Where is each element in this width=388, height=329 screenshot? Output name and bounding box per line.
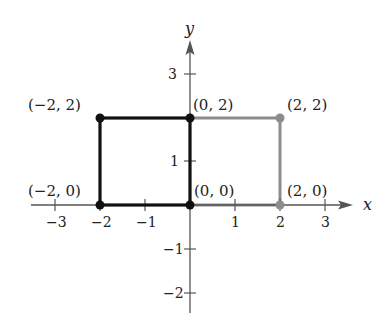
point-2-0 <box>276 201 285 210</box>
x-tick-label: −1 <box>136 214 157 230</box>
x-tick-label: 3 <box>321 214 330 230</box>
point-neg2-2 <box>96 114 105 123</box>
point-label: (−2, 0) <box>28 182 81 200</box>
x-tick-label: 2 <box>276 214 285 230</box>
coordinate-plane: x y −3 −2 −1 1 2 3 3 1 −1 −2 (−2, 2) (0,… <box>0 0 388 329</box>
y-tick-label: 3 <box>168 66 177 82</box>
x-axis-label: x <box>363 195 372 214</box>
y-axis-label: y <box>184 19 195 38</box>
point-label: (2, 2) <box>287 96 327 114</box>
x-tick-label: 1 <box>231 214 240 230</box>
point-neg2-0 <box>96 201 105 210</box>
point-0-0 <box>186 201 195 210</box>
point-label: (0, 2) <box>193 96 233 114</box>
point-label: (−2, 2) <box>28 96 81 114</box>
point-0-2 <box>186 114 195 123</box>
y-tick-label: −1 <box>163 241 184 257</box>
point-label: (2, 0) <box>287 182 327 200</box>
x-tick-label: −2 <box>91 214 112 230</box>
x-tick-label: −3 <box>46 214 67 230</box>
point-2-2 <box>276 114 285 123</box>
y-tick-label: 1 <box>170 153 179 169</box>
y-tick-label: −2 <box>163 285 184 301</box>
point-label: (0, 0) <box>194 182 234 200</box>
